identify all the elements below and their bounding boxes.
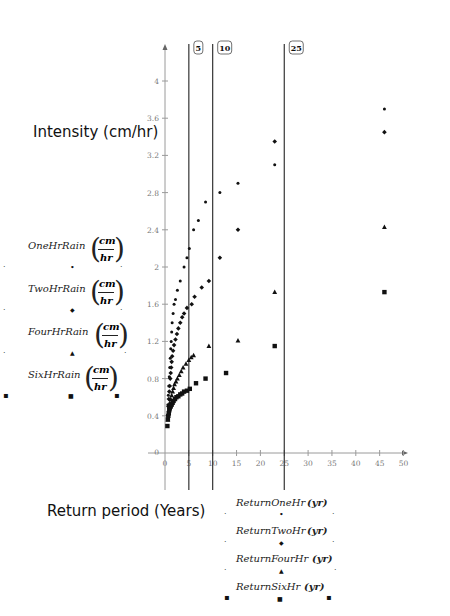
svg-text:2: 2 bbox=[154, 263, 159, 272]
svg-text:20: 20 bbox=[256, 459, 266, 468]
svg-text:0: 0 bbox=[154, 448, 159, 457]
legend-label: ReturnSixHr bbox=[236, 581, 300, 592]
y-series-legend: OneHrRain ( cm hr ) · • · TwoHrRain ( cm… bbox=[0, 232, 130, 404]
unit-fraction: ( cm hr ) bbox=[94, 318, 126, 354]
unit-label: (yr) bbox=[304, 581, 325, 592]
legend-entry-twohrrain: TwoHrRain ( cm hr ) · ◆ · bbox=[0, 275, 130, 318]
unit-label: (yr) bbox=[307, 525, 328, 536]
svg-text:0.8: 0.8 bbox=[147, 375, 159, 384]
svg-text:15: 15 bbox=[232, 459, 242, 468]
svg-text:10: 10 bbox=[219, 43, 231, 53]
svg-text:1.2: 1.2 bbox=[147, 337, 159, 346]
svg-text:3.2: 3.2 bbox=[147, 151, 159, 160]
diamond-marker-icon: ◆ bbox=[70, 306, 75, 313]
legend-entry-returntwohr: ReturnTwoHr (yr) · ◆ · bbox=[222, 523, 342, 551]
x-axis-title: Return period (Years) bbox=[47, 502, 205, 520]
square-marker-icon: ■ bbox=[277, 595, 283, 602]
dot-marker-icon: • bbox=[279, 510, 284, 519]
legend-entry-onehrrain: OneHrRain ( cm hr ) · • · bbox=[0, 232, 130, 275]
square-marker-icon: ■ bbox=[68, 392, 74, 399]
unit-fraction: ( cm hr ) bbox=[84, 361, 116, 397]
svg-text:4: 4 bbox=[154, 77, 159, 86]
unit-fraction: ( cm hr ) bbox=[90, 232, 122, 268]
unit-fraction: ( cm hr ) bbox=[90, 275, 122, 311]
legend-entry-sixhrrain: SixHrRain ( cm hr ) ▪ ■ ▪ bbox=[0, 361, 130, 404]
svg-text:45: 45 bbox=[375, 459, 385, 468]
legend-label: OneHrRain bbox=[28, 240, 85, 251]
unit-label: (yr) bbox=[307, 497, 328, 508]
triangle-marker-icon: ▲ bbox=[279, 567, 284, 574]
legend-label: FourHrRain bbox=[28, 326, 89, 337]
svg-text:5: 5 bbox=[196, 43, 202, 53]
y-axis-title: Intensity (cm/hr) bbox=[33, 123, 158, 141]
svg-text:40: 40 bbox=[351, 459, 361, 468]
diamond-marker-icon: ◆ bbox=[279, 539, 284, 546]
legend-label: ReturnFourHr bbox=[236, 553, 308, 564]
svg-text:35: 35 bbox=[327, 459, 337, 468]
svg-text:2.4: 2.4 bbox=[147, 226, 159, 235]
svg-text:3.6: 3.6 bbox=[147, 114, 159, 123]
svg-text:2.8: 2.8 bbox=[147, 189, 159, 198]
x-series-legend: ReturnOneHr (yr) · • · ReturnTwoHr (yr) … bbox=[222, 495, 342, 607]
legend-label: ReturnOneHr bbox=[236, 497, 305, 508]
legend-label: ReturnTwoHr bbox=[236, 525, 306, 536]
legend-entry-returnsixhr: ReturnSixHr (yr) ▪ ■ ▪ bbox=[222, 579, 342, 607]
svg-text:30: 30 bbox=[303, 459, 313, 468]
triangle-marker-icon: ▲ bbox=[70, 349, 75, 356]
legend-entry-fourhrrain: FourHrRain ( cm hr ) · ▲ · bbox=[0, 318, 130, 361]
unit-label: (yr) bbox=[312, 553, 333, 564]
axes: 0.40.81.21.622.42.83.23.6400510152025303… bbox=[147, 44, 408, 490]
legend-entry-returnonehr: ReturnOneHr (yr) · • · bbox=[222, 495, 342, 523]
legend-label: TwoHrRain bbox=[28, 283, 86, 294]
dot-marker-icon: • bbox=[70, 263, 75, 272]
svg-text:0.4: 0.4 bbox=[147, 412, 159, 421]
svg-text:0: 0 bbox=[163, 459, 168, 468]
data-points bbox=[165, 107, 387, 428]
svg-text:50: 50 bbox=[399, 459, 409, 468]
svg-text:1.6: 1.6 bbox=[147, 300, 159, 309]
svg-text:25: 25 bbox=[291, 43, 302, 53]
return-period-marker-lines: 51025 bbox=[189, 41, 303, 490]
legend-label: SixHrRain bbox=[28, 369, 81, 380]
legend-entry-returnfourhr: ReturnFourHr (yr) · ▲ · bbox=[222, 551, 342, 579]
